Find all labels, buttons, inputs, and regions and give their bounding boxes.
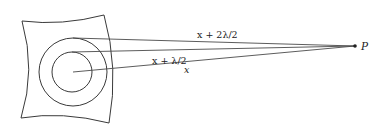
inner-zone-circle — [52, 52, 92, 92]
middle-ray — [72, 46, 355, 52]
point-p-dot — [353, 44, 357, 48]
outer-ray-label: x + 2λ/2 — [197, 29, 238, 40]
middle-ray-label: x + λ/2 — [152, 55, 187, 66]
wavefront-surface — [21, 15, 113, 123]
point-p-label: P — [360, 40, 369, 52]
center-ray-label: x — [184, 64, 190, 75]
fresnel-zone-diagram: P x + 2λ/2 x + λ/2 x — [0, 0, 388, 136]
center-ray — [73, 46, 355, 72]
